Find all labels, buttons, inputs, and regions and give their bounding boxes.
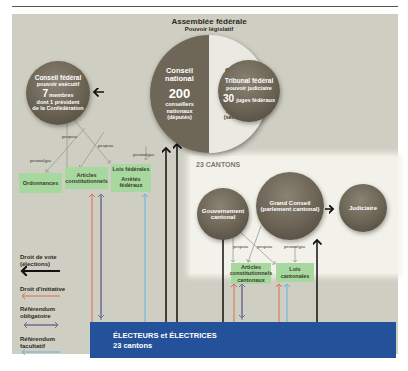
tribunal-count-label: juges fédéraux <box>236 97 275 104</box>
conseil-federal-count-label: membres <box>49 92 73 99</box>
box-lois-cantonales: Lois cantonales <box>276 263 314 282</box>
legend-ref-obligatoire-label-2: obligatoire <box>20 313 55 320</box>
gouvernement-label-2: cantonal <box>211 214 236 221</box>
conseil-federal-count: 7 <box>42 88 48 99</box>
legend-ref-obligatoire-label: Référendum obligatoire <box>20 306 55 320</box>
conseil-federal-desc-2: de la Confédération <box>32 105 83 112</box>
box-articles-cantonaux: Articles constitutionnels cantonaux <box>231 263 271 284</box>
conseil-national-count: 200 <box>169 87 191 101</box>
box-lois-federales: Lois fédérales Arrêtés fédéraux <box>111 164 151 192</box>
canton-label-propose-1: propose <box>233 244 249 249</box>
arretes-label-2: fédéraux <box>120 182 143 189</box>
legend-vote-label: Droit de vote (élections) <box>20 254 57 268</box>
canton-lois-label-2: cantonales <box>281 273 310 280</box>
assembly-title: Assemblée fédérale <box>150 17 268 26</box>
canton-articles-label-3: cantonaux <box>237 277 265 284</box>
conseil-federal-circle: Conseil fédéral pouvoir exécutif 7 membr… <box>26 61 90 125</box>
judiciaire-label: Judiciaire <box>349 205 377 212</box>
canton-label-propose-2: propose <box>257 244 273 249</box>
conseil-national: Conseil national 200 conseillers nationa… <box>150 35 209 153</box>
legend-vote-label-2: (élections) <box>20 261 57 268</box>
conseil-national-name-2: national <box>165 75 194 83</box>
conseil-national-desc-3: (députés) <box>167 114 192 121</box>
articles-label-2: constitutionnels <box>65 178 107 185</box>
gouvernement-cantonal-circle: Gouvernement cantonal <box>197 188 249 240</box>
label-propose-2: propose <box>98 143 114 148</box>
box-ordonnances: Ordonnances <box>19 173 62 193</box>
assembly-subtitle: Pouvoir législatif <box>150 26 268 32</box>
judiciaire-circle: Judiciaire <box>339 184 387 232</box>
tribunal-federal-circle: Tribunal fédéral pouvoir judiciaire 30 j… <box>218 60 280 122</box>
label-propose-1: propose <box>62 134 78 139</box>
legend-initiative-label: Droit d'initiative <box>20 286 65 293</box>
legend-ref-facultatif-label-2: facultatif <box>20 343 55 350</box>
ordonnances-label: Ordonnances <box>23 180 58 187</box>
grand-conseil-circle: Grand Conseil (parlement cantonal) <box>256 172 324 240</box>
voters-bar: ÉLECTEURS et ÉLECTRICES 23 cantons <box>90 322 396 358</box>
lois-federales-label: Lois fédérales <box>113 166 150 173</box>
legend-initiative-label-1: Droit d'initiative <box>20 286 65 293</box>
label-promulgue-1: promulgue <box>30 158 52 163</box>
legend-ref-obligatoire-label-1: Référendum <box>20 306 55 313</box>
canton-label-promulgue: promulgue <box>284 244 306 249</box>
legend-ref-facultatif-label-1: Référendum <box>20 336 55 343</box>
voters-line-2: 23 cantons <box>113 341 152 350</box>
voters-line-1: ÉLECTEURS et ÉLECTRICES <box>113 331 217 340</box>
cantons-title: 23 CANTONS <box>196 161 240 168</box>
label-promulgue-2: promulgue <box>133 152 155 157</box>
legend-vote-label-1: Droit de vote <box>20 254 57 261</box>
tribunal-count: 30 <box>223 93 234 104</box>
tribunal-role: pouvoir judiciaire <box>226 85 272 92</box>
box-articles-constitutionnels: Articles constitutionnels <box>65 167 108 189</box>
grand-conseil-label-2: (parlement cantonal) <box>260 206 319 213</box>
legend-ref-facultatif-label: Référendum facultatif <box>20 336 55 350</box>
